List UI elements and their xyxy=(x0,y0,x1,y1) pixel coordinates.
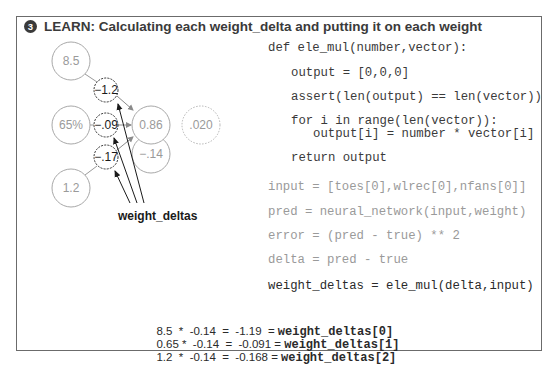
code-for-loop: for i in range(len(vector)): xyxy=(291,114,498,128)
code-input: input = [toes[0],wlrec[0],nfans[0]] xyxy=(268,180,526,194)
calc-result-2: weight_deltas[2] xyxy=(281,351,396,365)
svg-text:0.86: 0.86 xyxy=(139,118,163,132)
weight-delta-node-2: −.17 xyxy=(94,145,118,169)
code-delta: delta = pred - true xyxy=(268,253,408,267)
weight-deltas-label: weight_deltas xyxy=(117,209,198,223)
weight-delta-node-0: −1.2 xyxy=(94,78,118,102)
calc-row-2: 1.2 * -0.14 = -0.168 = weight_deltas[2] xyxy=(150,339,396,365)
code-error: error = (pred - true) ** 2 xyxy=(268,229,460,243)
calc-expr-2: 1.2 * -0.14 = -0.168 = xyxy=(156,351,281,363)
code-assert: assert(len(output) == len(vector)) xyxy=(291,90,542,104)
code-def-line: def ele_mul(number,vector): xyxy=(268,41,467,55)
svg-text:65%: 65% xyxy=(59,118,83,132)
edge-input0 xyxy=(85,74,97,82)
error-node: .020 xyxy=(182,106,220,144)
code-return: return output xyxy=(291,151,387,165)
svg-text:8.5: 8.5 xyxy=(63,54,80,68)
code-loop-body: output[i] = number * vector[i] xyxy=(313,127,534,141)
svg-text:.020: .020 xyxy=(189,118,213,132)
edge-input2 xyxy=(85,166,97,175)
svg-text:−.14: −.14 xyxy=(139,147,163,161)
weight-delta-node-1: −.09 xyxy=(94,113,118,137)
code-pred: pred = neural_network(input,weight) xyxy=(268,205,526,219)
svg-text:−1.2: −1.2 xyxy=(94,83,118,97)
prediction-node: 0.86 xyxy=(132,106,170,144)
code-weight-deltas: weight_deltas = ele_mul(delta,input) xyxy=(268,279,534,293)
svg-text:−.17: −.17 xyxy=(94,150,118,164)
svg-text:1.2: 1.2 xyxy=(63,181,80,195)
edge-weight2-pred xyxy=(117,137,133,150)
svg-text:−.09: −.09 xyxy=(94,118,118,132)
input-node-1: 65% xyxy=(52,106,90,144)
input-node-2: 1.2 xyxy=(52,169,90,207)
code-output-init: output = [0,0,0] xyxy=(291,66,409,80)
input-node-0: 8.5 xyxy=(52,42,90,80)
